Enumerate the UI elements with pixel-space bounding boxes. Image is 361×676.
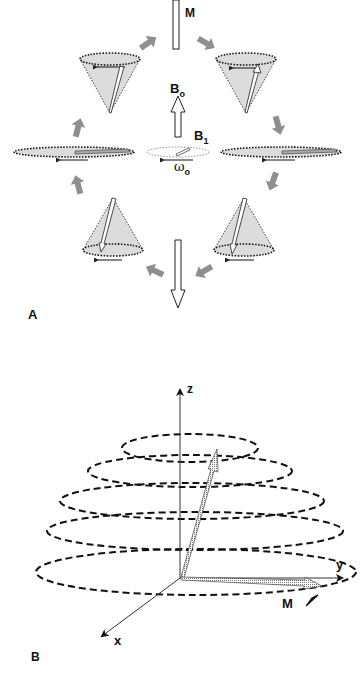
- panel-a-label: A: [28, 308, 37, 321]
- block-arrow-icon: [269, 114, 287, 136]
- panel-b-label: B: [31, 651, 40, 663]
- magnetization-up-bar: [173, 0, 179, 49]
- b0-main: B: [170, 81, 179, 96]
- magnetization-vector-transverse: [181, 577, 322, 589]
- b0-sub: o: [179, 89, 185, 99]
- x-axis-label: x: [114, 634, 121, 647]
- x-axis: [102, 578, 180, 636]
- b1-sub: 1: [203, 136, 208, 146]
- b1-main: B: [194, 128, 203, 143]
- block-arrow-icon: [195, 32, 218, 54]
- omega-main: ω: [174, 159, 185, 174]
- flat-disk-left: [14, 147, 134, 160]
- static-field-arrow: [171, 96, 185, 137]
- b1-label: B1: [194, 129, 208, 142]
- block-arrow-icon: [137, 32, 161, 54]
- precession-spiral: [36, 434, 356, 595]
- panel-b: [36, 390, 356, 636]
- cone-top-right: [216, 53, 276, 113]
- cone-bottom-right: [214, 198, 274, 260]
- z-axis-label: z: [187, 383, 193, 395]
- block-arrow-icon: [263, 170, 283, 193]
- rotation-direction-icon: [306, 595, 318, 606]
- y-axis-label: y: [336, 558, 343, 571]
- omega-sub: o: [185, 167, 191, 177]
- cone-top-left: [80, 53, 140, 113]
- block-arrow-icon: [192, 260, 215, 282]
- flat-disk-right: [221, 147, 341, 160]
- cone-bottom-left: [83, 198, 143, 260]
- nmr-figure: [0, 0, 361, 676]
- block-arrow-icon: [69, 117, 87, 139]
- panel-a: [14, 0, 341, 308]
- magnetization-down-arrow: [171, 240, 185, 308]
- block-arrow-icon: [143, 260, 166, 281]
- b0-label: Bo: [170, 82, 185, 95]
- magnetization-vector-tilted: [181, 449, 218, 578]
- m-label-b: M: [282, 597, 293, 610]
- omega0-label: ωo: [174, 160, 190, 173]
- block-arrow-icon: [69, 174, 87, 196]
- m-label-top: M: [185, 7, 195, 19]
